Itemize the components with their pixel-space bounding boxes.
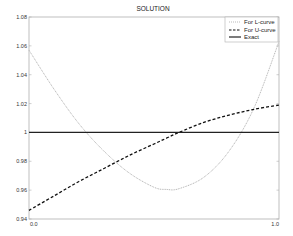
legend: For L-curve For U-curve Exact xyxy=(225,17,278,42)
solution-chart: SOLUTION 0.940.960.9811.021.041.061.08 0… xyxy=(0,0,293,236)
chart-title: SOLUTION xyxy=(136,5,170,12)
plot-series xyxy=(29,42,279,211)
y-tick-label: 1.04 xyxy=(16,72,27,78)
plot-frame xyxy=(29,17,279,219)
legend-label-l-curve: For L-curve xyxy=(244,19,275,25)
x-axis: 0.01.0 xyxy=(30,221,279,227)
y-tick-label: 1.02 xyxy=(16,101,27,107)
y-axis: 0.940.960.9811.021.041.061.08 xyxy=(16,14,279,222)
y-tick-label: 0.96 xyxy=(16,187,27,193)
series-for-u-curve xyxy=(29,105,279,210)
y-tick-label: 1.08 xyxy=(16,14,27,20)
series-for-l-curve xyxy=(29,42,279,190)
y-tick-label: 1 xyxy=(24,129,27,135)
legend-label-exact: Exact xyxy=(244,34,259,40)
y-tick-label: 0.94 xyxy=(16,216,27,222)
y-tick-label: 1.06 xyxy=(16,43,27,49)
legend-label-u-curve: For U-curve xyxy=(244,27,276,33)
x-tick-label: 1.0 xyxy=(271,221,279,227)
x-tick-label: 0.0 xyxy=(30,221,38,227)
y-tick-label: 0.98 xyxy=(16,158,27,164)
